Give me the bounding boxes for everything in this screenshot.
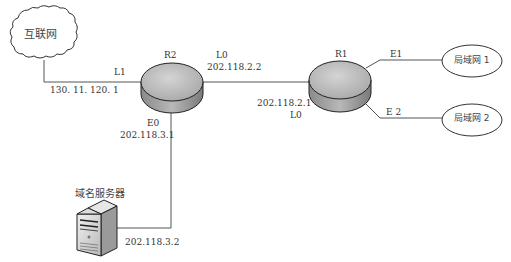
link-r1-lan1 [366, 60, 442, 68]
network-diagram: 互联网 L1 130. 11. 120. 1 R2 L0 202.118.2.2… [0, 0, 511, 262]
r2-l0-label: L0 [216, 51, 228, 60]
dns-server-label: 域名服务器 [75, 189, 125, 199]
r2-label: R2 [164, 51, 177, 60]
r1-e1-label: E1 [390, 50, 402, 59]
router-r1-icon [309, 61, 371, 112]
r2-l0-ip: 202.118.2.2 [207, 63, 261, 72]
r1-e2-label: E 2 [386, 108, 401, 117]
r2-e0-label: E0 [147, 119, 159, 128]
dns-server-icon [77, 200, 117, 256]
lan1-label: 局域网 1 [454, 56, 490, 65]
link-internet-r2 [44, 60, 141, 82]
lan2-label: 局域网 2 [454, 114, 490, 123]
link-r1-lan2 [366, 104, 442, 118]
r2-l1-ip: 130. 11. 120. 1 [50, 86, 119, 95]
diagram-graphics [0, 0, 511, 262]
r2-e0-ip: 202.118.3.1 [120, 131, 174, 140]
r1-label: R1 [335, 50, 348, 59]
dns-server-ip: 202.118.3.2 [125, 238, 179, 247]
r1-l0-label: L0 [290, 111, 302, 120]
r2-l1-label: L1 [114, 68, 126, 77]
internet-label: 互联网 [24, 29, 57, 40]
router-r2-icon [141, 63, 203, 113]
r1-l0-ip: 202.118.2.1 [257, 99, 311, 108]
